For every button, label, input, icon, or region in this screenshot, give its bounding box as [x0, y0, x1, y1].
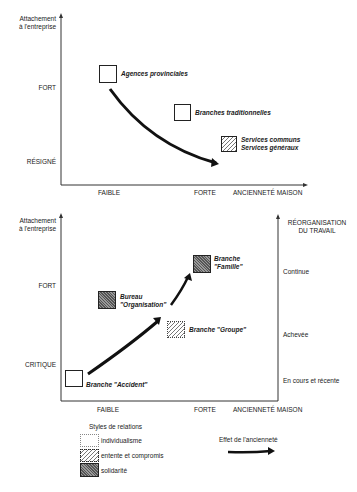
legend-arrow-icon — [0, 0, 357, 492]
